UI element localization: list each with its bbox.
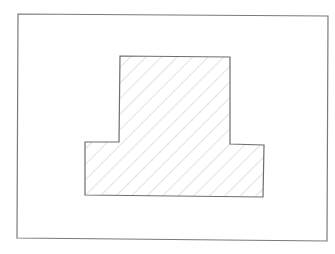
- t-section-shape: [85, 56, 264, 197]
- diagram-canvas: [0, 0, 335, 254]
